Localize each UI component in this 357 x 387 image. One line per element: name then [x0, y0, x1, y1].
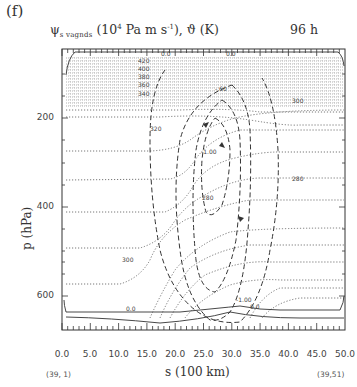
- contour-labels: 420 400 380 360 340 0.0 0.0 300 320 300 …: [122, 50, 304, 312]
- label-300-right: 300: [292, 97, 304, 104]
- flow-arrows: [203, 122, 244, 222]
- y-tick-200: 200: [20, 112, 54, 122]
- label-360: 360: [138, 81, 150, 88]
- psi-zero-surface: [66, 306, 340, 312]
- psi-zero-top: [66, 52, 344, 75]
- label-psi-60: -.60: [215, 85, 227, 92]
- x-tick-25: 25.0: [189, 349, 219, 359]
- label-300-left: 300: [122, 256, 134, 263]
- x-tick-5: 5.0: [75, 349, 105, 359]
- x-tick-35: 35.0: [245, 349, 275, 359]
- y-tick-600: 600: [20, 290, 54, 300]
- grid-index-right: (39,51): [317, 370, 344, 379]
- label-420: 420: [138, 57, 150, 64]
- label-320: 320: [150, 125, 162, 132]
- label-400: 400: [138, 65, 150, 72]
- label-280: 280: [202, 194, 214, 201]
- right-ticks: [339, 74, 345, 296]
- bottom-ticks: [62, 323, 339, 330]
- y-axis-label: p (hPa): [20, 207, 34, 250]
- left-ticks: [62, 74, 68, 296]
- label-psi0-surface-right: 0.0: [250, 303, 260, 310]
- label-psi0-top-right: 0.0: [226, 50, 236, 57]
- contour-plot: 420 400 380 360 340 0.0 0.0 300 320 300 …: [0, 0, 357, 387]
- label-psi0-surface-left: 0.0: [126, 305, 136, 312]
- x-tick-40: 40.0: [273, 349, 303, 359]
- label-280-right: 280: [292, 175, 304, 182]
- x-tick-30: 30.0: [217, 349, 247, 359]
- x-tick-20: 20.0: [160, 349, 190, 359]
- streamfunction-contours: [150, 70, 278, 323]
- x-tick-10: 10.0: [104, 349, 134, 359]
- x-tick-50: 50.0: [330, 349, 357, 359]
- label-psi-100-bottom: -1.00: [236, 296, 252, 303]
- x-axis-label: s (100 km): [165, 365, 230, 379]
- label-psi0-top-left: 0.0: [161, 50, 171, 57]
- x-tick-45: 45.0: [302, 349, 332, 359]
- label-psi-100: -1.00: [201, 148, 217, 155]
- label-380: 380: [138, 73, 150, 80]
- surface-pressure-line: [66, 312, 344, 323]
- x-tick-15: 15.0: [132, 349, 162, 359]
- top-ticks: [62, 49, 339, 56]
- x-tick-0: 0.0: [47, 349, 77, 359]
- grid-index-left: (39, 1): [46, 370, 71, 379]
- label-340: 340: [138, 90, 150, 97]
